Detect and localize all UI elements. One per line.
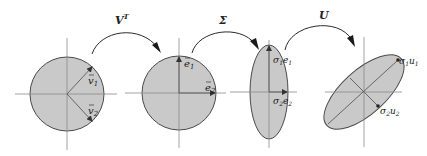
transform-sigma: Σ: [192, 14, 259, 53]
label-sigma1e1: σ1e1: [273, 55, 292, 66]
arc-u: [285, 26, 352, 50]
panel-unit-circle-v: v1 v2: [15, 38, 117, 150]
svd-diagram: v1 v2 VT e1 e2 Σ: [0, 0, 427, 156]
label-sigma2e2: σ2e2: [273, 96, 292, 107]
arc-sigma: [192, 32, 255, 53]
arc-vt: [92, 33, 158, 54]
label-u: U: [319, 9, 330, 22]
label-sigma: Σ: [218, 14, 227, 27]
transform-u: U: [285, 9, 355, 50]
label-vt: VT: [115, 12, 130, 27]
label-sigma2u2: σ2u2: [380, 106, 400, 117]
panel-scaled-ellipse: σ1e1 σ2e2: [230, 40, 297, 148]
label-sigma1u1: σ1u1: [399, 56, 419, 67]
panel-rotated-ellipse: σ1u1 σ2u2: [312, 37, 418, 147]
panel-unit-circle-e: e1 e2: [125, 38, 226, 148]
arrowhead-u: [347, 35, 355, 47]
transform-vt: VT: [92, 12, 161, 54]
arrowhead-vt: [152, 42, 161, 53]
